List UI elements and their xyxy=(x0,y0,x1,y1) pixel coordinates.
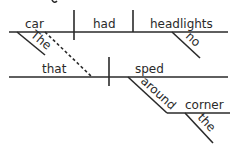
prep-object-modifier: the xyxy=(195,110,219,134)
relative-subject: that xyxy=(42,62,67,76)
main-object: headlights xyxy=(150,17,213,31)
relative-verb: sped xyxy=(135,62,164,76)
partial-glyph-top xyxy=(52,0,57,2)
sentence-diagram: car had headlights The no that sped arou… xyxy=(0,0,235,151)
main-subject: car xyxy=(25,17,44,31)
preposition: around xyxy=(138,74,179,113)
main-verb: had xyxy=(93,17,116,31)
